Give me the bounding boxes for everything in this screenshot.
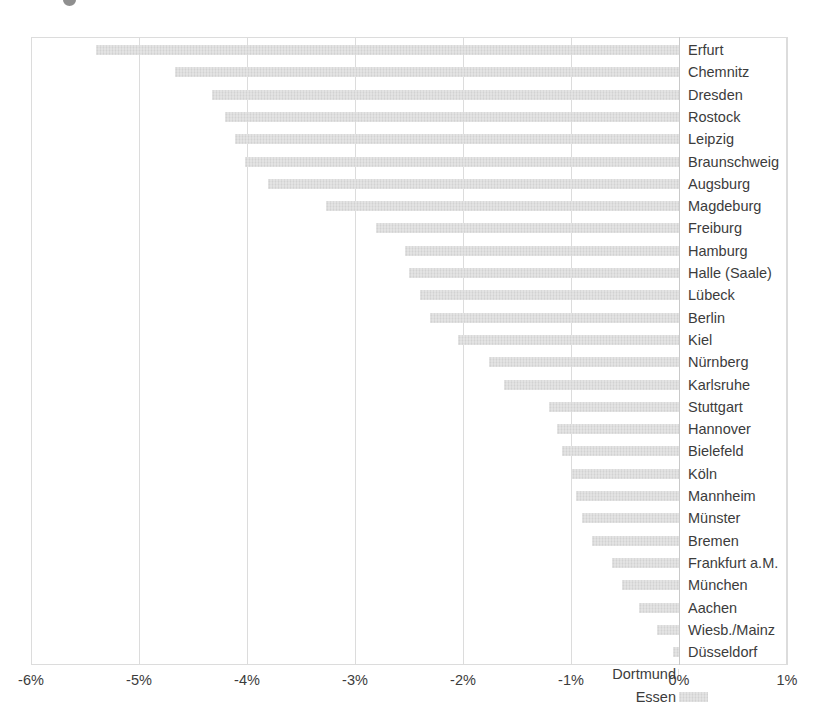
bar-row: Stuttgart: [31, 396, 787, 418]
bar: [612, 558, 679, 568]
bar-row: Mannheim: [31, 485, 787, 507]
category-label: Wiesb./Mainz: [688, 619, 775, 641]
bar: [212, 90, 679, 100]
bar-row: Frankfurt a.M.: [31, 552, 787, 574]
bar: [405, 246, 679, 256]
bar-row: Lübeck: [31, 284, 787, 306]
bar-row: Erfurt: [31, 39, 787, 61]
bar-row: Münster: [31, 507, 787, 529]
bar: [504, 380, 679, 390]
bar: [245, 157, 679, 167]
category-label: Karlsruhe: [688, 374, 750, 396]
bar: [268, 179, 679, 189]
x-tick-label: -5%: [126, 672, 152, 688]
bar-row: Düsseldorf: [31, 641, 787, 663]
bar: [326, 201, 679, 211]
bar-row: Dresden: [31, 84, 787, 106]
x-tick-label: -6%: [18, 672, 44, 688]
bar: [562, 446, 679, 456]
bar-rows: ErfurtChemnitzDresdenRostockLeipzigBraun…: [31, 37, 787, 665]
bar: [572, 469, 679, 479]
bar: [639, 603, 679, 613]
category-label: Halle (Saale): [688, 262, 772, 284]
bar: [592, 536, 679, 546]
bar-row: Berlin: [31, 307, 787, 329]
bar-row: Magdeburg: [31, 195, 787, 217]
category-label: Magdeburg: [688, 195, 761, 217]
category-label: Bremen: [688, 530, 739, 552]
bar-chart: ErfurtChemnitzDresdenRostockLeipzigBraun…: [0, 0, 822, 720]
bar-row: Rostock: [31, 106, 787, 128]
bar: [576, 491, 679, 501]
category-label: Rostock: [688, 106, 740, 128]
bar-row: Nürnberg: [31, 351, 787, 373]
bar: [673, 647, 679, 657]
x-tick-label: 0%: [669, 672, 690, 688]
bar-row: Wiesb./Mainz: [31, 619, 787, 641]
bar-row: Kiel: [31, 329, 787, 351]
bar-row: Braunschweig: [31, 151, 787, 173]
category-label: Mannheim: [688, 485, 756, 507]
bar: [175, 67, 679, 77]
category-label: Berlin: [688, 307, 725, 329]
bar: [657, 625, 679, 635]
category-label: Hamburg: [688, 240, 748, 262]
bar-row: Hamburg: [31, 240, 787, 262]
category-label: Chemnitz: [688, 61, 749, 83]
bar: [489, 357, 679, 367]
bar: [549, 402, 679, 412]
bar: [582, 513, 679, 523]
bar: [409, 268, 679, 278]
category-label: Düsseldorf: [688, 641, 757, 663]
bar-row: München: [31, 574, 787, 596]
category-label: Bielefeld: [688, 440, 744, 462]
bar: [376, 223, 679, 233]
category-label: Braunschweig: [688, 151, 779, 173]
bar: [96, 45, 679, 55]
bar-row: Aachen: [31, 597, 787, 619]
bar-row: Bielefeld: [31, 440, 787, 462]
category-label: Erfurt: [688, 39, 723, 61]
gridline-1: [787, 37, 788, 665]
bar-row: Chemnitz: [31, 61, 787, 83]
bar: [557, 424, 679, 434]
bar-row: Köln: [31, 463, 787, 485]
bar-row: Karlsruhe: [31, 374, 787, 396]
bar: [235, 134, 679, 144]
category-label: Kiel: [688, 329, 712, 351]
bar: [420, 290, 679, 300]
x-tick-label: -3%: [342, 672, 368, 688]
bar: [458, 335, 679, 345]
category-label: Münster: [688, 507, 740, 529]
x-tick-label: 1%: [777, 672, 798, 688]
bar-row: Leipzig: [31, 128, 787, 150]
bar-row: Freiburg: [31, 217, 787, 239]
x-tick-label: -4%: [234, 672, 260, 688]
bar: [622, 580, 679, 590]
category-label: Augsburg: [688, 173, 750, 195]
x-tick-label: -2%: [450, 672, 476, 688]
category-label: Stuttgart: [688, 396, 743, 418]
category-label: Leipzig: [688, 128, 734, 150]
x-tick-label: -1%: [558, 672, 584, 688]
bar-row: Hannover: [31, 418, 787, 440]
category-label: Hannover: [688, 418, 751, 440]
bar: [225, 112, 679, 122]
x-axis-tick-labels: -6%-5%-4%-3%-2%-1%0%1%: [0, 672, 822, 696]
bar-row: Augsburg: [31, 173, 787, 195]
category-label: Lübeck: [688, 284, 735, 306]
category-label: Frankfurt a.M.: [688, 552, 778, 574]
bar-row: Halle (Saale): [31, 262, 787, 284]
category-label: Freiburg: [688, 217, 742, 239]
category-label: Dresden: [688, 84, 743, 106]
bar-row: Bremen: [31, 530, 787, 552]
category-label: München: [688, 574, 748, 596]
category-label: Nürnberg: [688, 351, 748, 373]
bar: [430, 313, 679, 323]
category-label: Köln: [688, 463, 717, 485]
category-label: Aachen: [688, 597, 737, 619]
